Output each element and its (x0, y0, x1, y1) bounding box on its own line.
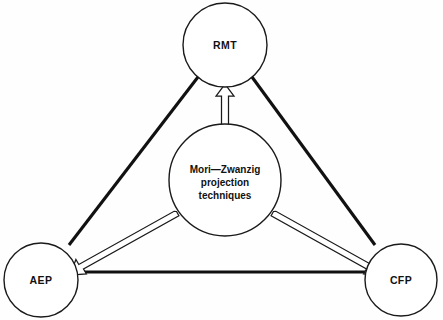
arrow-center-cfp (271, 211, 380, 275)
diagram-canvas: Mori—Zwanzig projection techniques RMT A… (0, 0, 443, 320)
diagram-svg: Mori—Zwanzig projection techniques RMT A… (0, 0, 443, 320)
center-node-label-line-3: techniques (199, 190, 252, 201)
node-aep[interactable]: AEP (4, 243, 78, 317)
node-rmt[interactable]: RMT (183, 3, 267, 87)
node-rmt-label: RMT (213, 39, 237, 51)
node-cfp-label: CFP (390, 274, 412, 286)
node-cfp[interactable]: CFP (365, 244, 437, 316)
center-node-mori-zwanzig[interactable]: Mori—Zwanzig projection techniques (169, 124, 281, 236)
center-node-label-line-1: Mori—Zwanzig (190, 164, 261, 175)
center-node-label-line-2: projection (201, 177, 249, 188)
node-aep-label: AEP (30, 274, 53, 286)
arrow-center-rmt (216, 84, 234, 126)
